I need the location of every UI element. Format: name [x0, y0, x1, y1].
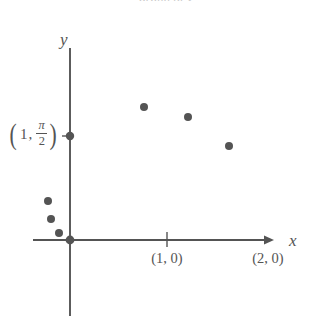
data-point [47, 215, 55, 223]
data-point-origin [66, 236, 75, 245]
open-paren: ( [9, 120, 16, 148]
x-axis-arrowhead [264, 235, 274, 244]
data-point [55, 229, 63, 237]
data-point-labeled [66, 132, 74, 140]
data-point [44, 197, 52, 205]
y-axis-label: y [58, 30, 68, 49]
data-point [140, 103, 148, 111]
data-point [184, 113, 192, 121]
x-tick-label-1-0: (1, 0) [151, 250, 183, 267]
label-x-value: 1 [18, 127, 29, 142]
fraction-pi-over-2: π 2 [35, 119, 48, 148]
fraction-denominator: 2 [39, 135, 45, 148]
point-label-pi-over-2: ( 1 , π 2 ) [8, 119, 58, 148]
x-tick-label-2-0: (2, 0) [252, 250, 284, 267]
figure-canvas: graph of y y x (1, 0) (2, 0) ( 1 , [0, 0, 326, 330]
label-comma: , [29, 127, 36, 142]
coordinate-plot-svg: y x (1, 0) (2, 0) [0, 0, 326, 330]
x-axis-label: x [288, 231, 297, 250]
fraction-numerator: π [39, 119, 45, 132]
close-paren: ) [50, 120, 57, 148]
data-point [225, 142, 233, 150]
